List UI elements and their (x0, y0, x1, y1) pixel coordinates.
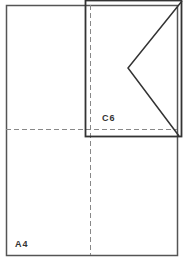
c6-label: C6 (102, 113, 116, 123)
paper-size-diagram: C6 A4 (0, 0, 187, 259)
a4-sheet (7, 6, 178, 256)
a4-label: A4 (15, 239, 29, 249)
